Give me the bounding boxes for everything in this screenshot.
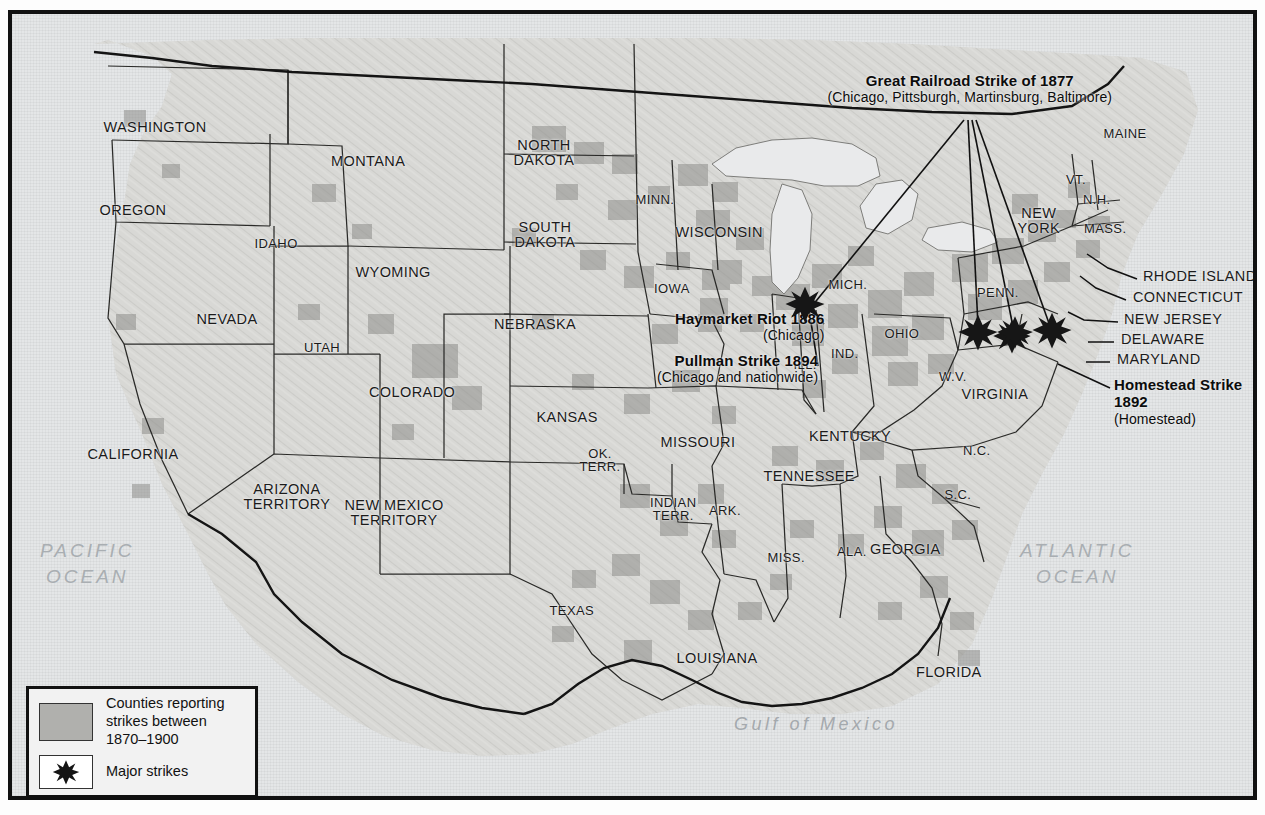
annotation-haymarket-riot: Haymarket Riot 1886(Chicago) <box>675 310 824 344</box>
atlantic-ocean-label: ATLANTIC OCEAN <box>1020 538 1134 589</box>
state-label-vermont: VT. <box>1066 173 1086 187</box>
state-label-south-dakota: SOUTH DAKOTA <box>515 220 576 250</box>
state-label-new-jersey: NEW JERSEY <box>1124 312 1222 327</box>
state-label-kansas: KANSAS <box>537 410 598 425</box>
major-strike-swatch <box>39 755 93 789</box>
annotation-title-pullman-strike: Pullman Strike 1894 <box>657 352 818 369</box>
state-label-wisconsin: WISCONSIN <box>676 225 763 240</box>
state-label-minnesota: MINN. <box>636 193 675 207</box>
map-frame: WASHINGTONOREGONIDAHOMONTANAWYOMINGNEVAD… <box>8 10 1257 800</box>
annotation-subtitle-haymarket-riot: (Chicago) <box>675 327 824 343</box>
state-label-missouri: MISSOURI <box>661 435 736 450</box>
state-label-wyoming: WYOMING <box>356 265 431 280</box>
state-label-texas: TEXAS <box>550 604 595 618</box>
state-label-louisiana: LOUISIANA <box>677 651 758 666</box>
state-label-nebraska: NEBRASKA <box>494 317 576 332</box>
gulf-of-mexico-label: Gulf of Mexico <box>734 714 898 735</box>
state-label-virginia: VIRGINIA <box>962 387 1029 402</box>
state-label-maryland: MARYLAND <box>1117 352 1201 367</box>
state-label-idaho: IDAHO <box>255 237 298 251</box>
annotation-title-homestead-strike: Homestead Strike 1892 <box>1114 376 1242 411</box>
state-label-oregon: OREGON <box>100 203 167 218</box>
state-label-indiana: IND. <box>831 347 859 361</box>
state-label-new-york: NEW YORK <box>1018 206 1061 236</box>
counties-swatch <box>39 703 93 741</box>
state-label-north-carolina: N.C. <box>963 444 991 458</box>
map-legend: Counties reporting strikes between 1870–… <box>26 686 258 798</box>
legend-row-counties: Counties reporting strikes between 1870–… <box>39 695 245 748</box>
state-label-rhode-island: RHODE ISLAND <box>1143 269 1257 284</box>
state-label-new-hampshire: N.H. <box>1083 193 1111 207</box>
state-label-oklahoma-territory: OK. TERR. <box>580 447 621 474</box>
state-label-north-dakota: NORTH DAKOTA <box>514 138 575 168</box>
state-label-michigan: MICH. <box>829 278 868 292</box>
legend-row-major-strikes: Major strikes <box>39 755 245 789</box>
state-label-montana: MONTANA <box>331 154 405 169</box>
annotation-great-railroad-strike: Great Railroad Strike of 1877(Chicago, P… <box>828 72 1113 106</box>
annotation-subtitle-homestead-strike: (Homestead) <box>1114 411 1242 427</box>
map-page: WASHINGTONOREGONIDAHOMONTANAWYOMINGNEVAD… <box>0 0 1265 815</box>
state-label-new-mexico-territory: NEW MEXICO TERRITORY <box>345 498 444 528</box>
starburst-icon <box>51 758 81 786</box>
state-label-mississippi: MISS. <box>768 551 805 565</box>
legend-counties-label: Counties reporting strikes between 1870–… <box>106 695 225 748</box>
state-label-south-carolina: S.C. <box>945 488 972 502</box>
state-label-maine: MAINE <box>1104 127 1147 141</box>
state-label-west-virginia: W.V. <box>939 370 967 384</box>
annotation-title-great-railroad-strike: Great Railroad Strike of 1877 <box>828 72 1113 89</box>
state-label-utah: UTAH <box>304 341 340 355</box>
legend-major-strikes-label: Major strikes <box>106 763 188 781</box>
state-label-alabama: ALA. <box>837 545 867 559</box>
annotation-pullman-strike: Pullman Strike 1894(Chicago and nationwi… <box>657 352 818 386</box>
state-label-colorado: COLORADO <box>369 385 455 400</box>
annotation-subtitle-great-railroad-strike: (Chicago, Pittsburgh, Martinsburg, Balti… <box>828 89 1113 105</box>
state-label-georgia: GEORGIA <box>870 542 940 557</box>
state-label-arkansas: ARK. <box>709 504 741 518</box>
state-label-california: CALIFORNIA <box>88 447 179 462</box>
state-label-iowa: IOWA <box>654 282 690 296</box>
state-label-connecticut: CONNECTICUT <box>1133 290 1243 305</box>
pacific-ocean-label: PACIFIC OCEAN <box>40 538 135 589</box>
state-label-nevada: NEVADA <box>197 312 258 327</box>
state-label-indian-territory: INDIAN TERR. <box>650 496 696 523</box>
state-label-ohio: OHIO <box>885 327 920 341</box>
state-label-washington: WASHINGTON <box>104 120 207 135</box>
state-label-arizona-territory: ARIZONA TERRITORY <box>244 482 331 512</box>
state-label-kentucky: KENTUCKY <box>809 429 891 444</box>
state-label-pennsylvania: PENN. <box>977 286 1019 300</box>
state-label-massachusetts: MASS. <box>1084 222 1126 236</box>
annotation-title-haymarket-riot: Haymarket Riot 1886 <box>675 310 824 327</box>
state-label-delaware: DELAWARE <box>1121 332 1205 347</box>
annotation-subtitle-pullman-strike: (Chicago and nationwide) <box>657 369 818 385</box>
state-label-florida: FLORIDA <box>916 665 982 680</box>
state-label-tennessee: TENNESSEE <box>764 469 855 484</box>
annotation-homestead-strike: Homestead Strike 1892(Homestead) <box>1114 376 1242 427</box>
